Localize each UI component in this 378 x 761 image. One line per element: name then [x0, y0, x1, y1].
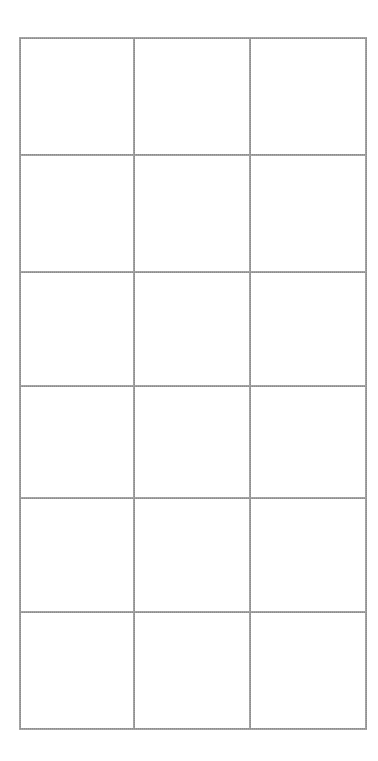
- table-cell-text: [251, 499, 365, 611]
- table-cell[interactable]: [250, 386, 366, 499]
- table-cell[interactable]: [20, 612, 134, 729]
- table-cell[interactable]: [250, 612, 366, 729]
- table-cell[interactable]: [20, 155, 134, 272]
- table-cell-text: [21, 156, 133, 271]
- table-row: [20, 155, 366, 272]
- table-cell-text: [251, 387, 365, 498]
- table-cell-text: [251, 273, 365, 385]
- table-cell-text: [21, 39, 133, 154]
- table-cell-text: [135, 613, 249, 728]
- table-body: [20, 38, 366, 729]
- page-canvas: [0, 0, 378, 761]
- table-cell-text: [135, 39, 249, 154]
- table-cell-text: [135, 499, 249, 611]
- table-cell[interactable]: [250, 38, 366, 155]
- table-cell-text: [21, 273, 133, 385]
- table-cell-text: [135, 273, 249, 385]
- blank-grid-table: [19, 37, 367, 730]
- table-cell[interactable]: [250, 498, 366, 612]
- table-cell[interactable]: [20, 272, 134, 386]
- table-cell[interactable]: [134, 386, 250, 499]
- table-cell[interactable]: [20, 38, 134, 155]
- table-row: [20, 498, 366, 612]
- table-cell[interactable]: [250, 272, 366, 386]
- table-cell-text: [21, 499, 133, 611]
- table-row: [20, 612, 366, 729]
- table-cell[interactable]: [20, 498, 134, 612]
- table-cell-text: [135, 387, 249, 498]
- table-cell-text: [251, 39, 365, 154]
- table-cell[interactable]: [250, 155, 366, 272]
- table-cell-text: [251, 613, 365, 728]
- table-cell[interactable]: [134, 155, 250, 272]
- table-cell-text: [21, 387, 133, 498]
- table-row: [20, 38, 366, 155]
- table-row: [20, 272, 366, 386]
- table-cell[interactable]: [134, 612, 250, 729]
- table-cell-text: [251, 156, 365, 271]
- table-cell[interactable]: [20, 386, 134, 499]
- table-row: [20, 386, 366, 499]
- table-cell-text: [21, 613, 133, 728]
- table-cell[interactable]: [134, 272, 250, 386]
- table-cell-text: [135, 156, 249, 271]
- table-cell[interactable]: [134, 38, 250, 155]
- table-cell[interactable]: [134, 498, 250, 612]
